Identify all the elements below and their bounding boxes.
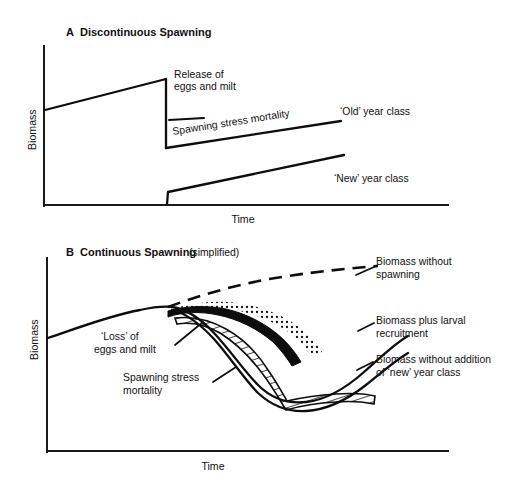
panel-a-release-label-line2: eggs and milt	[174, 81, 236, 92]
panel-b-label-stress-mortality-line2: mortality	[123, 385, 163, 396]
panel-a-release-label-line1: Release of	[174, 69, 224, 80]
figure-container: A Discontinuous Spawning Biomass Time Re…	[0, 0, 530, 484]
panel-b-label-plus-larval-line2: recruitment	[376, 328, 428, 339]
panel-b-label-stress-mortality-line1: Spawning stress	[123, 372, 199, 383]
panel-b-leader-loss-eggs	[175, 322, 203, 345]
panel-b-label-loss-eggs-line1: ‘Loss’ of	[101, 331, 139, 342]
panel-b-subtitle: (simplified)	[189, 247, 239, 258]
panel-a-title: Discontinuous Spawning	[80, 26, 211, 38]
panel-b-title: Continuous Spawning	[80, 246, 196, 258]
panel-b-label-without-spawning-line2: spawning	[376, 269, 420, 280]
panel-b-label-without-addition-line2: of ‘new’ year class	[376, 367, 461, 378]
panel-a-letter: A	[66, 26, 74, 38]
panel-a: A Discontinuous Spawning Biomass Time Re…	[26, 26, 448, 225]
panel-a-old-year-class-label: ‘Old’ year class	[340, 106, 410, 117]
panel-b-label-plus-larval-line1: Biomass plus larval	[376, 315, 466, 326]
panel-a-new-year-class-label: ‘New’ year class	[334, 173, 409, 184]
panel-a-old-class-pre-spawn	[45, 79, 166, 110]
panel-a-new-class-line	[167, 155, 344, 204]
panel-a-x-axis-label: Time	[231, 213, 254, 225]
panel-b-leader-plus-larval	[358, 323, 374, 331]
panel-b-y-axis-label: Biomass	[28, 319, 40, 360]
panel-b-letter: B	[66, 246, 74, 258]
panel-b-label-loss-eggs-line2: eggs and milt	[94, 344, 156, 355]
panel-b-label-without-spawning-line1: Biomass without	[376, 256, 452, 267]
panel-a-y-axis-label: Biomass	[26, 109, 38, 150]
panel-b-biomass-without-spawning-curve	[168, 266, 378, 307]
panel-b-label-without-addition-line1: Biomass without addition	[376, 354, 491, 365]
panel-b-leader-stress-mortality	[213, 367, 236, 382]
panel-b-x-axis-label: Time	[201, 460, 224, 472]
panel-b: B Continuous Spawning (simplified) Bioma…	[28, 246, 491, 472]
biomass-spawning-figure: A Discontinuous Spawning Biomass Time Re…	[0, 0, 530, 484]
panel-a-stress-mortality-segment	[169, 118, 204, 120]
